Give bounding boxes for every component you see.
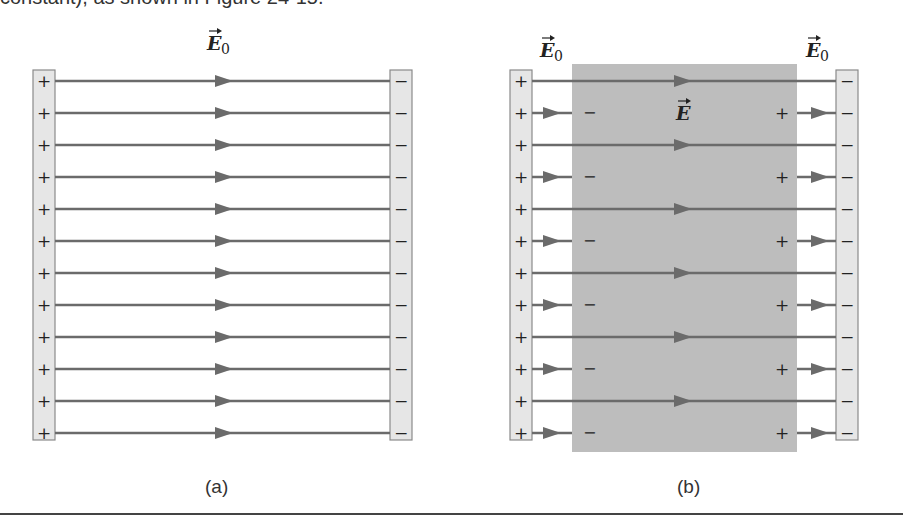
arrowhead-icon <box>811 299 829 311</box>
arrowhead-icon <box>543 363 561 375</box>
induced-positive-charge: + <box>775 423 789 443</box>
capacitor-diagram: +−+−+−+−+−+−+−+−+−+−+−+−E0 +−+−−++−+−−++… <box>0 0 903 519</box>
minus-charge: − <box>394 71 408 91</box>
vector-subscript: 0 <box>221 41 230 57</box>
minus-charge: − <box>394 391 408 411</box>
arrowhead-icon <box>811 171 829 183</box>
arrowhead-icon <box>543 171 561 183</box>
minus-charge: − <box>840 391 854 411</box>
minus-charge: − <box>840 199 854 219</box>
panel-a-vacuum-capacitor: +−+−+−+−+−+−+−+−+−+−+−+−E0 <box>33 28 412 443</box>
plus-charge: + <box>37 135 51 155</box>
arrowhead-icon <box>215 427 233 439</box>
minus-charge: − <box>394 167 408 187</box>
arrowhead-icon <box>811 363 829 375</box>
panel-b-dielectric-capacitor: +−+−−++−+−−++−+−−++−+−−++−+−−++−+−−+E0E0… <box>510 35 858 452</box>
arrowhead-icon <box>543 427 561 439</box>
field-label-e-inside: E <box>675 98 691 124</box>
induced-positive-charge: + <box>775 295 789 315</box>
section-divider <box>0 513 903 515</box>
minus-charge: − <box>394 103 408 123</box>
field-label-e0: E0 <box>206 28 230 57</box>
positive-plate <box>510 70 532 440</box>
minus-charge: − <box>840 103 854 123</box>
plus-charge: + <box>514 327 528 347</box>
plus-charge: + <box>37 359 51 379</box>
induced-negative-charge: − <box>583 231 596 250</box>
minus-charge: − <box>840 359 854 379</box>
plus-charge: + <box>514 167 528 187</box>
induced-positive-charge: + <box>775 103 789 123</box>
field-label-e0-left: E0 <box>539 35 563 64</box>
plus-charge: + <box>37 391 51 411</box>
arrowhead-icon <box>215 171 233 183</box>
arrowhead-icon <box>543 299 561 311</box>
minus-charge: − <box>840 135 854 155</box>
plus-charge: + <box>37 327 51 347</box>
plus-charge: + <box>514 423 528 443</box>
plus-charge: + <box>514 263 528 283</box>
arrowhead-icon <box>215 331 233 343</box>
arrowhead-icon <box>215 107 233 119</box>
induced-negative-charge: − <box>583 359 596 378</box>
vector-symbol: E <box>539 39 555 61</box>
plus-charge: + <box>514 231 528 251</box>
induced-negative-charge: − <box>583 103 596 122</box>
minus-charge: − <box>394 231 408 251</box>
caption-b: (b) <box>677 476 700 498</box>
induced-negative-charge: − <box>583 167 596 186</box>
minus-charge: − <box>840 295 854 315</box>
arrowhead-icon <box>811 235 829 247</box>
minus-charge: − <box>840 231 854 251</box>
arrowhead-icon <box>543 235 561 247</box>
vector-symbol: E <box>675 102 691 124</box>
minus-charge: − <box>394 199 408 219</box>
arrowhead-icon <box>215 75 233 87</box>
minus-charge: − <box>394 327 408 347</box>
plus-charge: + <box>514 103 528 123</box>
minus-charge: − <box>840 263 854 283</box>
plus-charge: + <box>514 71 528 91</box>
plus-charge: + <box>37 199 51 219</box>
arrowhead-icon <box>215 203 233 215</box>
plus-charge: + <box>37 167 51 187</box>
plus-charge: + <box>514 359 528 379</box>
plus-charge: + <box>37 295 51 315</box>
minus-charge: − <box>840 167 854 187</box>
arrowhead-icon <box>543 107 561 119</box>
plus-charge: + <box>37 263 51 283</box>
induced-positive-charge: + <box>775 167 789 187</box>
plus-charge: + <box>514 135 528 155</box>
arrowhead-icon <box>215 235 233 247</box>
induced-negative-charge: − <box>583 423 596 442</box>
induced-positive-charge: + <box>775 359 789 379</box>
plus-charge: + <box>514 199 528 219</box>
arrowhead-icon <box>811 107 829 119</box>
negative-plate <box>836 70 858 440</box>
plus-charge: + <box>37 71 51 91</box>
minus-charge: − <box>840 71 854 91</box>
plus-charge: + <box>514 391 528 411</box>
plus-charge: + <box>37 231 51 251</box>
vector-symbol: E <box>206 32 222 54</box>
minus-charge: − <box>394 263 408 283</box>
induced-negative-charge: − <box>583 295 596 314</box>
positive-plate <box>33 70 55 440</box>
arrowhead-icon <box>215 363 233 375</box>
negative-plate <box>390 70 412 440</box>
caption-a: (a) <box>205 476 228 498</box>
plus-charge: + <box>37 423 51 443</box>
field-label-e0-right: E0 <box>805 35 829 64</box>
plus-charge: + <box>514 295 528 315</box>
minus-charge: − <box>840 327 854 347</box>
vector-symbol: E <box>805 39 821 61</box>
minus-charge: − <box>394 295 408 315</box>
minus-charge: − <box>394 135 408 155</box>
minus-charge: − <box>840 423 854 443</box>
arrowhead-icon <box>811 427 829 439</box>
vector-subscript: 0 <box>820 48 829 64</box>
arrowhead-icon <box>215 395 233 407</box>
arrowhead-icon <box>215 139 233 151</box>
vector-subscript: 0 <box>554 48 563 64</box>
arrowhead-icon <box>215 299 233 311</box>
